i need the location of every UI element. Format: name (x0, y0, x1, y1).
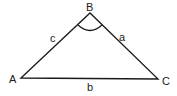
side-label-c: c (50, 32, 56, 44)
triangle-diagram: B A C c a b (0, 0, 177, 96)
vertex-label-c: C (162, 75, 170, 87)
triangle (21, 13, 158, 79)
side-label-b: b (87, 81, 93, 93)
side-label-a: a (119, 31, 126, 43)
vertex-label-b: B (86, 1, 93, 13)
vertex-label-a: A (9, 73, 17, 85)
angle-b-arc (78, 25, 102, 31)
